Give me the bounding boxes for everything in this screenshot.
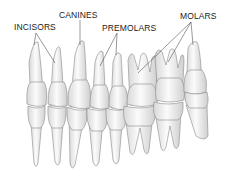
upper-incisor-2 (48, 47, 67, 107)
lower-molar-1 (124, 106, 156, 155)
upper-molar-3 (184, 42, 207, 94)
upper-canine (68, 41, 91, 109)
upper-premolar-2 (109, 53, 128, 110)
upper-incisor-1 (27, 42, 47, 106)
label-molars: MOLARS (180, 12, 217, 21)
lower-canine (67, 107, 87, 168)
lower-molar-2 (154, 102, 184, 151)
lower-premolar-2 (106, 108, 127, 164)
lower-incisor-2 (48, 106, 66, 165)
leader-molars-c (191, 22, 193, 45)
upper-molar-2 (155, 49, 185, 102)
lower-premolar-1 (87, 108, 108, 166)
upper-molar-1 (127, 53, 157, 106)
lower-incisor-1 (28, 106, 45, 167)
label-incisors: INCISORS (14, 23, 56, 32)
lower-molar-3 (185, 92, 208, 139)
upper-premolar-1 (90, 51, 109, 109)
leader-premolars-b (116, 33, 117, 55)
label-premolars: PREMOLARS (102, 24, 156, 33)
label-canines: CANINES (59, 11, 98, 20)
